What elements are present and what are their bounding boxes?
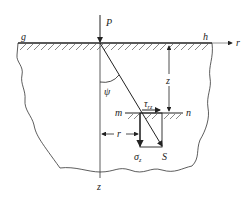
boussinesq-diagram: P g h r z ψ z m n τrz σz S r <box>0 0 250 201</box>
diagram-canvas: P g h r z ψ z m n τrz σz S r <box>0 0 250 201</box>
r-axis-label: r <box>236 37 240 48</box>
plane-n-label: n <box>186 107 191 118</box>
point-g-label: g <box>21 31 26 42</box>
plane-hatch <box>128 114 181 119</box>
depth-label: z <box>165 75 170 86</box>
point-h-label: h <box>203 31 208 42</box>
resultant-stress-label: S <box>162 151 167 162</box>
angle-label: ψ <box>104 86 111 97</box>
surface-hatch <box>20 44 208 50</box>
normal-stress-label: σz <box>134 151 142 163</box>
load-label: P <box>105 17 112 28</box>
shear-stress-label: τrz <box>144 98 153 110</box>
radial-dimension-label: r <box>117 128 121 139</box>
plane-m-label: m <box>115 107 122 118</box>
z-axis-label: z <box>96 181 101 192</box>
angle-arc <box>100 75 119 82</box>
stress-element <box>140 113 162 147</box>
